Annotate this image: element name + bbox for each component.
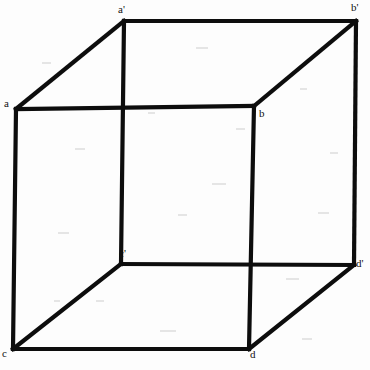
- cube-edge-b-prime-to-d-prime: [354, 21, 356, 265]
- cube-edge-c-prime-to-a-prime: [121, 21, 124, 264]
- vertex-label-d-prime: d': [356, 258, 363, 269]
- cube-edge-c-to-a: [13, 109, 16, 349]
- cube-edge-b-to-d: [249, 106, 254, 349]
- vertex-label-b: b: [259, 108, 265, 119]
- vertex-label-c: c: [2, 348, 7, 359]
- cube-edge-c-to-c-prime: [13, 264, 121, 349]
- cube-wireframe-svg: [0, 0, 370, 370]
- cube-edge-d-to-d-prime: [249, 265, 354, 349]
- vertex-label-d: d: [250, 349, 256, 360]
- vertex-label-a: a: [4, 98, 9, 109]
- cube-edge-group: [13, 21, 356, 349]
- vertex-label-a-prime: a': [118, 4, 125, 15]
- figure-canvas: a'b'c'd'abcd: [0, 0, 370, 370]
- vertex-label-b-prime: b': [351, 2, 358, 13]
- cube-edge-d-prime-to-c-prime: [121, 264, 354, 265]
- cube-edge-a-to-b: [16, 106, 254, 109]
- cube-edge-b-to-b-prime: [254, 21, 356, 106]
- cube-edge-a-to-a-prime: [16, 21, 124, 109]
- vertex-label-c-prime: c': [119, 248, 126, 259]
